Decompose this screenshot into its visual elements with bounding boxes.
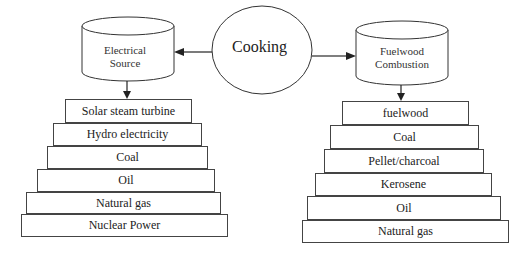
fuelwood-stack-row: fuelwood: [342, 101, 469, 125]
cooking-label: Cooking: [232, 38, 287, 56]
electrical-stack-row: Nuclear Power: [21, 214, 228, 237]
fuelwood-combustion-line1: Fuelwood: [362, 45, 442, 58]
fuelwood-combustion-label: Fuelwood Combustion: [362, 45, 442, 71]
electrical-stack-row: Oil: [37, 169, 215, 192]
fuelwood-stack-row: Kerosene: [315, 173, 492, 196]
fuelwood-stack-row: Natural gas: [302, 220, 509, 243]
electrical-stack-row: Hydro electricity: [53, 123, 202, 146]
fuelwood-stack-row: Oil: [307, 196, 501, 220]
fuelwood-stack-row: Pellet/charcoal: [324, 149, 484, 173]
electrical-stack-row: Natural gas: [26, 192, 221, 214]
fuelwood-stack-row: Coal: [330, 125, 479, 149]
electrical-stack-row: Coal: [47, 146, 208, 169]
arrow-down-icon: [123, 91, 131, 99]
electrical-source-line1: Electrical: [90, 44, 160, 57]
arrow-left-icon: [174, 48, 184, 56]
fuelwood-combustion-line2: Combustion: [362, 58, 442, 71]
electrical-stack-row: Solar steam turbine: [65, 99, 192, 123]
arrow-down-icon: [397, 93, 405, 101]
electrical-source-line2: Source: [90, 57, 160, 70]
electrical-source-label: Electrical Source: [90, 44, 160, 70]
arrow-right-icon: [346, 52, 356, 60]
